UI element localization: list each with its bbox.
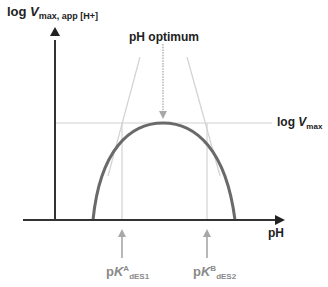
vmax-label-prefix: log — [277, 115, 298, 129]
left-asymptote-line — [108, 57, 140, 176]
pka-right-var: K — [201, 264, 210, 279]
pka-right-prefix: p — [193, 264, 201, 279]
y-axis-label-var: V — [30, 4, 39, 19]
x-axis-arrow-icon — [275, 215, 285, 225]
x-axis-label: pH — [268, 226, 284, 240]
pka-left-prefix: p — [106, 264, 114, 279]
pka-right-label: pKBdES2 — [193, 264, 236, 279]
y-axis-label: log Vmax, app [H+] — [7, 4, 98, 19]
pka-right-subscript: dES2 — [216, 272, 236, 281]
pka-left-subscript: dES1 — [129, 272, 149, 281]
pka-left-var: K — [114, 264, 123, 279]
vmax-label: log Vmax — [277, 115, 322, 129]
ph-optimum-label: pH optimum — [129, 30, 199, 44]
y-axis-label-prefix: log — [7, 4, 30, 19]
optimum-arrow-head-icon — [159, 111, 167, 119]
y-axis-label-subscript: max, app [H+] — [39, 11, 98, 21]
vmax-label-subscript: max — [306, 122, 322, 131]
y-axis-arrow-icon — [50, 27, 60, 36]
pka-right-arrow-head-icon — [203, 229, 211, 237]
activity-curve — [93, 123, 235, 220]
pka-left-label: pKAdES1 — [106, 264, 149, 279]
pka-left-arrow-head-icon — [118, 229, 126, 237]
